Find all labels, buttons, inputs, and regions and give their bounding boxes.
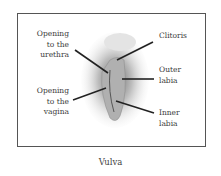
diagram-caption: Vulva xyxy=(0,157,221,167)
label-line: Clitoris xyxy=(159,31,187,42)
label-line: to the xyxy=(22,40,69,51)
label-line: Opening xyxy=(22,86,69,97)
label-clitoris: Clitoris xyxy=(159,31,187,42)
label-line: labia xyxy=(159,119,180,130)
label-line: vagina xyxy=(22,107,69,118)
label-outer-labia: Outer labia xyxy=(159,65,181,86)
label-urethra: Opening to the urethra xyxy=(22,29,69,61)
label-line: urethra xyxy=(22,50,69,61)
label-line: Outer xyxy=(159,65,181,76)
label-line: Opening xyxy=(22,29,69,40)
label-vagina: Opening to the vagina xyxy=(22,86,69,118)
label-line: labia xyxy=(159,76,181,87)
pubic-hair-area xyxy=(104,33,136,51)
label-line: to the xyxy=(22,97,69,108)
label-line: Inner xyxy=(159,108,180,119)
label-inner-labia: Inner labia xyxy=(159,108,180,129)
